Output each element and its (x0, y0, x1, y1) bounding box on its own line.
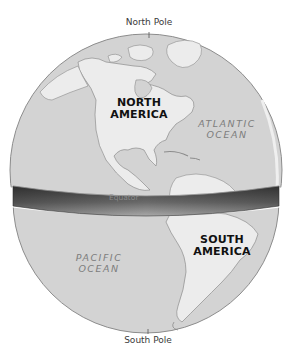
north-pole-label: North Pole (99, 17, 199, 27)
ocean-label-line: PACIFIC (64, 252, 134, 263)
south-pole-label: South Pole (98, 335, 198, 345)
continent-label-north-america: NORTH AMERICA (104, 97, 174, 121)
ocean-label-line: ATLANTIC (192, 118, 262, 129)
ocean-label-atlantic: ATLANTIC OCEAN (192, 118, 262, 140)
globe-graphic (0, 0, 293, 350)
globe-diagram: North Pole South Pole NORTH AMERICA SOUT… (0, 0, 293, 350)
ocean-label-pacific: PACIFIC OCEAN (64, 252, 134, 274)
continent-label-south-america: SOUTH AMERICA (187, 234, 257, 258)
continent-label-line: AMERICA (187, 246, 257, 258)
equator-label: Equator (109, 193, 138, 202)
ocean-label-line: OCEAN (64, 263, 134, 274)
ocean-label-line: OCEAN (192, 129, 262, 140)
continent-label-line: AMERICA (104, 109, 174, 121)
